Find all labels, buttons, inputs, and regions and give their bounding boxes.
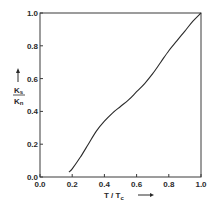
y-tick-label: 0.8 [27,42,39,51]
svg-text:Ks: Ks [14,86,24,95]
x-tick-label: 0.6 [131,180,143,189]
x-axis-label: T / Tc [104,191,154,201]
y-label-num-sub: s [20,89,24,95]
x-tick-label: 0.2 [67,180,79,189]
y-tick-label: 0.0 [27,173,39,182]
x-label-sub: c [120,195,124,201]
ks-kn-curve [69,13,201,172]
chart-canvas: 0.00.20.40.60.81.0 0.00.20.40.60.81.0 T … [0,0,216,208]
y-axis-ticks: 0.00.20.40.60.81.0 [27,9,43,182]
y-tick-label: 0.4 [27,107,39,116]
svg-text:Kn: Kn [14,97,24,106]
x-tick-label: 0.4 [99,180,111,189]
y-tick-label: 0.6 [27,75,39,84]
y-tick-label: 1.0 [27,9,39,18]
svg-text:T / Tc: T / Tc [104,191,124,201]
x-label-main: T / T [104,191,121,200]
plot-frame [40,13,201,177]
x-arrow-head-icon [150,193,154,197]
y-arrow-head-icon [16,68,20,73]
x-tick-label: 1.0 [195,180,207,189]
y-label-den-sub: n [20,100,24,106]
y-tick-label: 0.2 [27,140,39,149]
y-axis-label: Ks Kn [13,68,25,106]
x-axis-ticks: 0.00.20.40.60.81.0 [34,174,207,189]
x-tick-label: 0.8 [163,180,175,189]
